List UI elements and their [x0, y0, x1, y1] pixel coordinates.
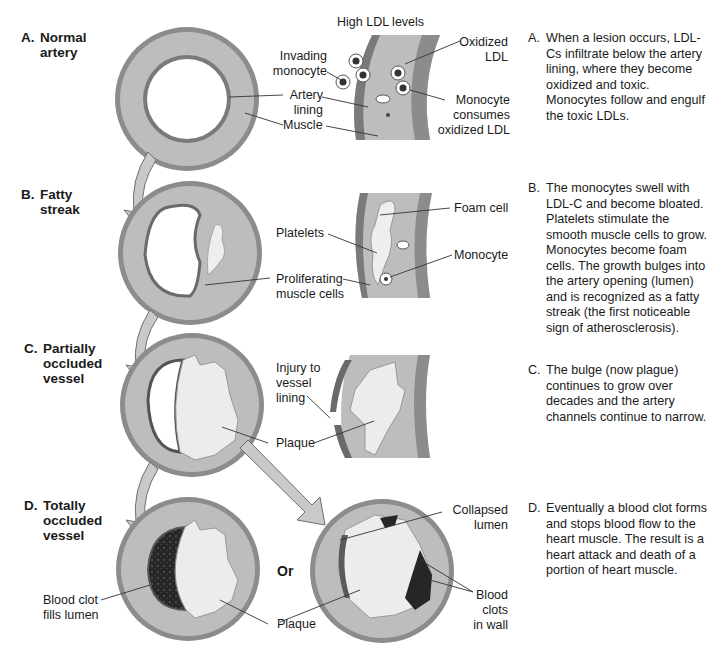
progression-arrow-c-d-alt — [240, 440, 325, 525]
description-a-text: When a lesion occurs, LDL-Cs infiltrate … — [546, 31, 711, 124]
callout-plaque-d-left: Plaque — [277, 617, 316, 632]
callout-blood-clots-in-wall: Blood clots in wall — [460, 588, 508, 633]
callout-oxidized-ldl: Oxidized LDL — [440, 35, 508, 65]
callout-injury-vessel-lining: Injury to vessel lining — [276, 361, 320, 406]
callout-muscle: Muscle — [283, 118, 323, 133]
stage-a-name: Normal artery — [40, 30, 160, 60]
stage-b-name: Fatty streak — [40, 187, 160, 217]
callout-monocyte: Monocyte — [454, 248, 508, 263]
artery-b-detail — [355, 193, 432, 298]
callout-monocyte-consumes: Monocyte consumes oxidized LDL — [430, 93, 510, 138]
artery-c-detail — [330, 355, 430, 458]
callout-platelets: Platelets — [276, 226, 324, 241]
detail-header-high-ldl: High LDL levels — [337, 15, 424, 30]
description-a-letter: A. — [528, 31, 540, 47]
callout-artery-lining: Artery lining — [283, 88, 323, 118]
description-c-text: The bulge (now plague) continues to grow… — [546, 363, 711, 425]
description-b-text: The monocytes swell with LDL-C and becom… — [546, 181, 711, 336]
callout-proliferating-muscle-cells: Proliferating muscle cells — [276, 272, 344, 302]
or-label: Or — [277, 563, 293, 579]
description-d-letter: D. — [528, 501, 541, 517]
stage-c-letter: C. — [24, 341, 38, 356]
callout-invading-monocyte: Invading monocyte — [265, 49, 327, 79]
description-b-letter: B. — [528, 181, 540, 197]
stage-d-letter: D. — [24, 498, 38, 513]
stage-c-name: Partially occluded vessel — [43, 341, 163, 386]
artery-d-collapsed-cross-section — [310, 499, 454, 643]
callout-plaque-c: Plaque — [276, 436, 315, 451]
stage-d-name: Totally occluded vessel — [43, 498, 163, 543]
stage-a-letter: A. — [21, 30, 35, 45]
stage-b-letter: B. — [21, 187, 35, 202]
description-c-letter: C. — [528, 363, 541, 379]
callout-collapsed-lumen: Collapsed lumen — [440, 503, 508, 533]
description-d-text: Eventually a blood clot forms and stops … — [546, 501, 711, 579]
artery-a-detail — [336, 35, 440, 140]
callout-foam-cell: Foam cell — [454, 201, 508, 216]
callout-blood-clot-fills-lumen: Blood clot fills lumen — [43, 593, 99, 623]
